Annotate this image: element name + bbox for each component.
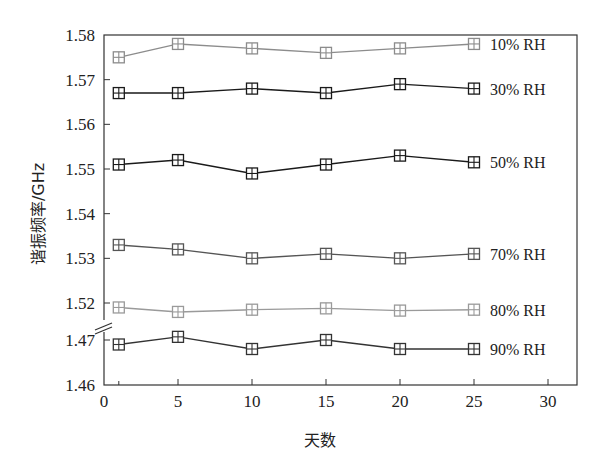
- x-tick-label: 30: [540, 392, 557, 411]
- data-point-marker: [113, 159, 124, 170]
- series-10-rh: [113, 38, 479, 62]
- data-point-marker: [247, 83, 258, 94]
- data-point-marker: [321, 248, 332, 259]
- x-tick-label: 0: [100, 392, 109, 411]
- data-point-marker: [247, 253, 258, 264]
- data-point-marker: [469, 38, 480, 49]
- data-point-marker: [173, 244, 184, 255]
- data-point-marker: [469, 157, 480, 168]
- x-tick-label: 10: [244, 392, 261, 411]
- data-point-marker: [321, 303, 332, 314]
- series-label: 70% RH: [490, 246, 546, 263]
- data-point-marker: [321, 335, 332, 346]
- x-tick-label: 15: [318, 392, 335, 411]
- data-point-marker: [247, 304, 258, 315]
- data-point-marker: [113, 239, 124, 250]
- data-point-marker: [469, 248, 480, 259]
- data-point-marker: [469, 344, 480, 355]
- x-tick-label: 20: [392, 392, 409, 411]
- data-point-marker: [173, 155, 184, 166]
- data-point-marker: [321, 159, 332, 170]
- data-point-marker: [469, 304, 480, 315]
- data-point-marker: [395, 79, 406, 90]
- axis-break-mark: [95, 320, 112, 334]
- x-tick-label: 25: [466, 392, 483, 411]
- series-label: 80% RH: [490, 302, 546, 319]
- data-point-marker: [395, 344, 406, 355]
- data-point-marker: [173, 331, 184, 342]
- y-tick-label: 1.54: [65, 205, 95, 224]
- x-axis-title: 天数: [304, 431, 336, 450]
- series-30-rh: [113, 79, 479, 99]
- data-point-marker: [395, 305, 406, 316]
- data-point-marker: [173, 88, 184, 99]
- series-label: 50% RH: [490, 154, 546, 171]
- data-point-marker: [321, 88, 332, 99]
- data-point-marker: [113, 52, 124, 63]
- y-axis-title: 谐振频率/GHz: [29, 163, 48, 265]
- y-tick-label: 1.52: [65, 294, 95, 313]
- y-tick-label: 1.47: [65, 331, 95, 350]
- data-point-marker: [247, 168, 258, 179]
- y-tick-label: 1.58: [65, 26, 95, 45]
- series-labels: 10% RH30% RH50% RH70% RH80% RH90% RH: [490, 36, 546, 358]
- y-tick-label: 1.56: [65, 115, 95, 134]
- data-point-marker: [321, 47, 332, 58]
- x-tick-label: 5: [174, 392, 183, 411]
- data-point-marker: [247, 43, 258, 54]
- y-tick-label: 1.53: [65, 249, 95, 268]
- data-point-marker: [395, 43, 406, 54]
- y-tick-label: 1.57: [65, 71, 95, 90]
- series-label: 90% RH: [490, 341, 546, 358]
- y-axis: 1.461.471.521.531.541.551.561.571.58: [65, 26, 110, 395]
- data-point-marker: [173, 38, 184, 49]
- series-90-rh: [113, 331, 479, 354]
- y-tick-label: 1.46: [65, 376, 95, 395]
- series-50-rh: [113, 150, 479, 179]
- data-point-marker: [113, 88, 124, 99]
- series-80-rh: [113, 302, 479, 317]
- y-tick-label: 1.55: [65, 160, 95, 179]
- series-label: 30% RH: [490, 81, 546, 98]
- series-layer: [113, 38, 479, 354]
- resonant-frequency-line-chart: 051015202530 1.461.471.521.531.541.551.5…: [0, 0, 596, 472]
- series-70-rh: [113, 239, 479, 263]
- x-axis: 051015202530: [100, 379, 557, 411]
- data-point-marker: [469, 83, 480, 94]
- data-point-marker: [113, 339, 124, 350]
- data-point-marker: [395, 253, 406, 264]
- data-point-marker: [173, 306, 184, 317]
- data-point-marker: [395, 150, 406, 161]
- data-point-marker: [113, 302, 124, 313]
- series-label: 10% RH: [490, 36, 546, 53]
- data-point-marker: [247, 344, 258, 355]
